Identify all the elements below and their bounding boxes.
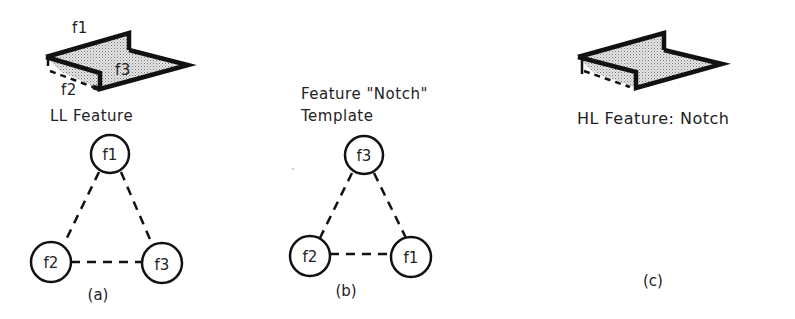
panel-c: HL Feature: Notch (c) [577,33,729,290]
svg-text:f1: f1 [103,146,118,164]
panel-c-title: HL Feature: Notch [577,109,729,128]
node-f2: f2 [31,242,71,282]
edge-f1-f2 [64,172,99,244]
panel-a-title: LL Feature [50,107,133,125]
graph-a: f1 f2 f3 [31,135,182,283]
svg-text:f2: f2 [303,248,318,266]
caption-b: (b) [335,282,356,300]
ll-feature-shape: f1 f3 f2 [46,19,188,99]
node-f1: f1 [391,237,431,277]
label-f3: f3 [115,61,131,79]
edge-f3-f2 [319,173,352,240]
panel-b-title-line2: Template [300,107,373,125]
svg-text:f3: f3 [155,256,170,274]
node-f2: f2 [290,236,330,276]
svg-text:f1: f1 [404,249,419,267]
edge-f3-f1 [374,173,406,238]
node-f3: f3 [345,136,383,174]
scan-speck [292,168,294,170]
label-f1: f1 [72,19,88,37]
node-f3: f3 [142,243,182,283]
node-f1: f1 [91,135,129,173]
edge-f1-f3 [121,172,152,244]
hl-feature-shape [578,33,722,88]
caption-c: (c) [643,272,663,290]
svg-text:f3: f3 [357,147,372,165]
label-f2: f2 [61,81,77,99]
panel-b-title-line1: Feature "Notch" [301,85,428,103]
floor-edge [93,87,100,89]
caption-a: (a) [88,286,109,304]
graph-b: f3 f2 f1 [290,136,431,277]
svg-text:f2: f2 [44,254,59,272]
panel-b: Feature "Notch" Template f3 f2 f1 (b) [290,85,431,300]
diagram-canvas: f1 f3 f2 LL Feature f1 f2 f3 (a) Fea [0,0,795,319]
panel-a: f1 f3 f2 LL Feature f1 f2 f3 (a) [31,19,188,304]
